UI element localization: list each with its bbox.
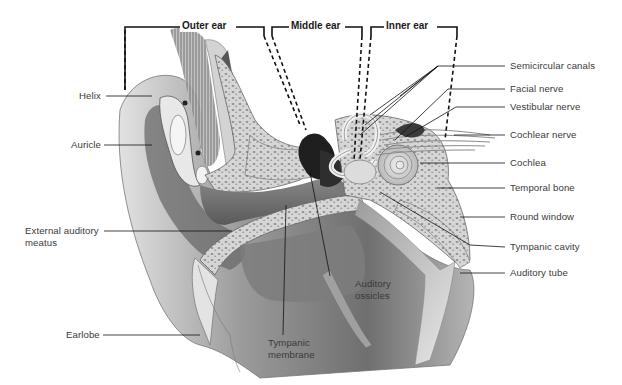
label-semicircular-canals: Semicircular canals [510, 60, 595, 72]
label-tympanic: Tympanic [268, 337, 310, 349]
label-tympanic-cavity: Tympanic cavity [510, 241, 580, 253]
label-vestibular-nerve: Vestibular nerve [510, 101, 580, 113]
vestibule [344, 160, 376, 184]
region-label-middle-ear: Middle ear [289, 20, 342, 32]
label-meatus: meatus [25, 237, 57, 249]
label-cochlear-nerve: Cochlear nerve [510, 129, 576, 141]
label-facial-nerve: Facial nerve [510, 83, 563, 95]
label-external-auditory: External auditory [25, 225, 99, 237]
label-earlobe: Earlobe [66, 329, 100, 341]
label-auditory: Auditory [355, 278, 391, 290]
region-label-inner-ear: Inner ear [384, 20, 430, 32]
label-helix: Helix [79, 90, 101, 102]
label-temporal-bone: Temporal bone [510, 182, 575, 194]
label-cochlea: Cochlea [510, 157, 546, 169]
label-auricle: Auricle [71, 139, 101, 151]
cochlea-shape [378, 145, 418, 185]
label-round-window: Round window [510, 211, 574, 223]
label-auditory-tube: Auditory tube [510, 267, 568, 279]
region-label-outer-ear: Outer ear [180, 20, 228, 32]
label-membrane: membrane [268, 349, 315, 361]
ear-anatomy-diagram: Outer ear Middle ear Inner ear Helix Aur… [0, 0, 622, 385]
label-ossicles: ossicles [355, 290, 390, 302]
